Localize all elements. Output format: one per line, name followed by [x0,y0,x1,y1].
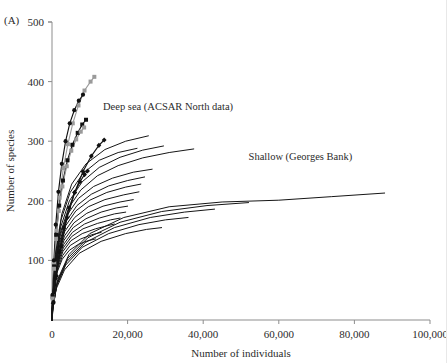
data-curve-deep-sea-plain-6 [52,177,145,320]
data-marker-square [61,166,65,170]
y-tick-label: 500 [28,16,45,28]
data-marker-square [76,103,80,107]
shallow-label: Shallow (Georges Bank) [249,151,353,163]
data-marker-circle [68,121,72,125]
data-marker-square [89,80,93,84]
data-marker-square [54,233,58,237]
deep-sea-label: Deep sea (ACSAR North data) [103,101,234,113]
y-tick-label: 200 [28,195,45,207]
data-marker-circle [77,99,81,103]
data-marker-circle [52,258,56,262]
plot-axes [52,22,430,320]
data-marker-square [65,164,69,168]
x-tick-label: 80,000 [339,328,370,340]
data-marker-square [57,209,61,213]
data-curve-shallow-georges-bank-2 [52,203,249,320]
data-marker-circle [81,93,85,97]
data-marker-square [82,125,86,129]
data-marker-square [65,158,69,162]
data-marker-square [51,297,55,301]
data-marker-circle [64,139,68,143]
data-marker-square [74,137,78,141]
data-marker-square [54,237,58,241]
data-marker-square [52,267,56,271]
species-accumulation-chart: 100200300400500020,00040,00060,00080,000… [0,0,447,363]
y-tick-label: 300 [28,135,45,147]
data-marker-circle [60,162,64,166]
data-marker-square [84,118,88,122]
data-marker-square [58,196,62,200]
data-marker-circle [56,190,60,194]
data-marker-square [60,184,64,188]
y-tick-label: 400 [28,76,45,88]
x-tick-label: 40,000 [188,328,219,340]
figure-panel: (A) 100200300400500020,00040,00060,00080… [0,0,447,363]
data-marker-square [57,204,61,208]
data-marker-square [70,143,74,147]
data-marker-square [55,229,59,233]
y-axis-title: Number of species [4,130,16,212]
y-tick-label: 100 [28,254,45,266]
x-tick-label: 60,000 [264,328,295,340]
data-marker-circle [54,223,58,227]
x-tick-label: 100,000 [412,328,447,340]
data-marker-square [79,130,83,134]
x-axis-title: Number of individuals [191,347,291,359]
x-tick-label: 0 [49,328,55,340]
data-marker-square [92,75,96,79]
data-marker-square [83,89,87,93]
x-tick-label: 20,000 [112,328,143,340]
data-marker-square [69,149,73,153]
data-marker-square [61,179,65,183]
data-marker-circle [72,108,76,112]
